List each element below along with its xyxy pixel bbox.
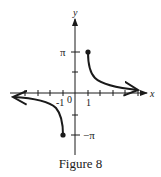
- origin-label: 0: [67, 94, 72, 105]
- x-axis-label: x: [149, 88, 155, 99]
- figure-plot: y x π −π -1 0 1: [0, 0, 161, 177]
- x-tick-label-minus-one: -1: [56, 97, 64, 108]
- left-branch-endpoint: [60, 132, 65, 137]
- x-tick-label-one: 1: [86, 97, 91, 108]
- neg-pi-label: −π: [83, 129, 95, 141]
- pi-label: π: [60, 46, 66, 58]
- figure-caption: Figure 8: [0, 156, 161, 172]
- right-branch-endpoint: [85, 49, 90, 54]
- y-axis-label: y: [72, 7, 78, 18]
- right-branch-curve: [88, 52, 138, 90]
